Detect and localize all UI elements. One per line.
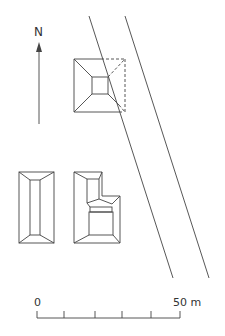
road-edge-left <box>89 16 173 278</box>
north-arrow-icon <box>36 42 42 124</box>
building-rect-left <box>19 172 54 243</box>
road-edge-right <box>125 16 209 278</box>
scale-bar <box>37 311 180 318</box>
building-l-shape-right <box>74 172 120 243</box>
scale-start-label: 0 <box>34 297 41 308</box>
site-plan <box>0 0 225 336</box>
scale-end-label: 50 m <box>173 297 201 308</box>
north-label: N <box>34 26 43 38</box>
